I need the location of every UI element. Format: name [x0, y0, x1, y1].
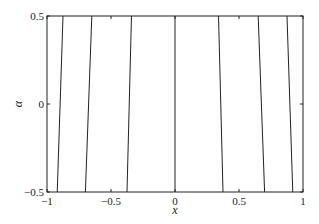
y-tick-label: 0.5 [30, 10, 44, 22]
chart: −1−0.500.51 −0.500.5 x α [0, 0, 319, 224]
data-line-7 [287, 16, 293, 192]
y-axis-label: α [11, 100, 25, 107]
data-line-5 [219, 16, 223, 192]
data-line-2 [85, 16, 91, 192]
x-axis-label: x [171, 203, 178, 217]
y-tick-label: −0.5 [24, 186, 44, 198]
x-tick-label: 1 [300, 195, 306, 207]
x-tick-label: 0.5 [232, 195, 246, 207]
data-lines [57, 16, 293, 192]
data-line-6 [258, 16, 264, 192]
data-line-1 [57, 16, 63, 192]
x-tick-label: −0.5 [101, 195, 121, 207]
y-tick-labels: −0.500.5 [24, 10, 44, 198]
y-tick-label: 0 [39, 98, 45, 110]
data-line-3 [127, 16, 131, 192]
